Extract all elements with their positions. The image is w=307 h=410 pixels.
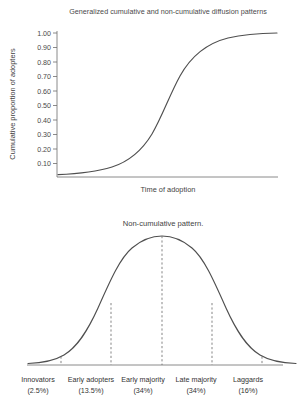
y-tick-label: 0.20 xyxy=(37,146,51,154)
y-tick-label: 0.60 xyxy=(37,88,51,96)
segment-percent-early-adopters: (13.5%) xyxy=(78,386,103,395)
segment-label-laggards: Laggards xyxy=(233,375,263,384)
segment-percent-late-majority: (34%) xyxy=(186,386,205,395)
figure-title: Generalized cumulative and non-cumulativ… xyxy=(69,7,267,16)
cumulative-x-axis-title: Time of adoption xyxy=(141,185,196,194)
y-tick-label: 0.50 xyxy=(37,102,51,110)
cumulative-curve xyxy=(58,33,277,175)
cumulative-chart: Cumulative proportion of adopters 1.00 0… xyxy=(8,30,278,195)
cumulative-y-tick-marks xyxy=(53,33,57,164)
non-cumulative-dividers xyxy=(61,236,262,365)
cumulative-y-axis-title: Cumulative proportion of adopters xyxy=(8,48,17,160)
y-tick-label: 0.40 xyxy=(37,117,51,125)
segment-percent-laggards: (16%) xyxy=(238,386,257,395)
y-tick-label: 1.00 xyxy=(37,30,51,38)
y-tick-label: 0.10 xyxy=(37,160,51,168)
segment-label-early-majority: Early majority xyxy=(121,375,165,384)
y-tick-label: 0.30 xyxy=(37,131,51,139)
segment-label-late-majority: Late majority xyxy=(175,375,217,384)
segment-label-innovators: Innovators xyxy=(21,375,55,384)
segment-percent-innovators: (2.5%) xyxy=(27,386,48,395)
y-tick-label: 0.90 xyxy=(37,44,51,52)
y-tick-label: 0.80 xyxy=(37,59,51,67)
segment-label-early-adopters: Early adopters xyxy=(68,375,115,384)
figure-canvas: Generalized cumulative and non-cumulativ… xyxy=(0,0,307,410)
non-cumulative-chart: Non-cumulative pattern. Innovators (2.5%… xyxy=(21,219,296,395)
segment-percent-early-majority: (34%) xyxy=(133,386,152,395)
cumulative-y-tick-labels: 1.00 0.90 0.80 0.70 0.60 0.50 0.40 0.30 … xyxy=(37,30,51,169)
diffusion-figure: Generalized cumulative and non-cumulativ… xyxy=(0,0,307,410)
y-tick-label: 0.70 xyxy=(37,73,51,81)
non-cumulative-title: Non-cumulative pattern. xyxy=(123,219,204,228)
segment-labels: Innovators (2.5%) Early adopters (13.5%)… xyxy=(21,375,263,395)
